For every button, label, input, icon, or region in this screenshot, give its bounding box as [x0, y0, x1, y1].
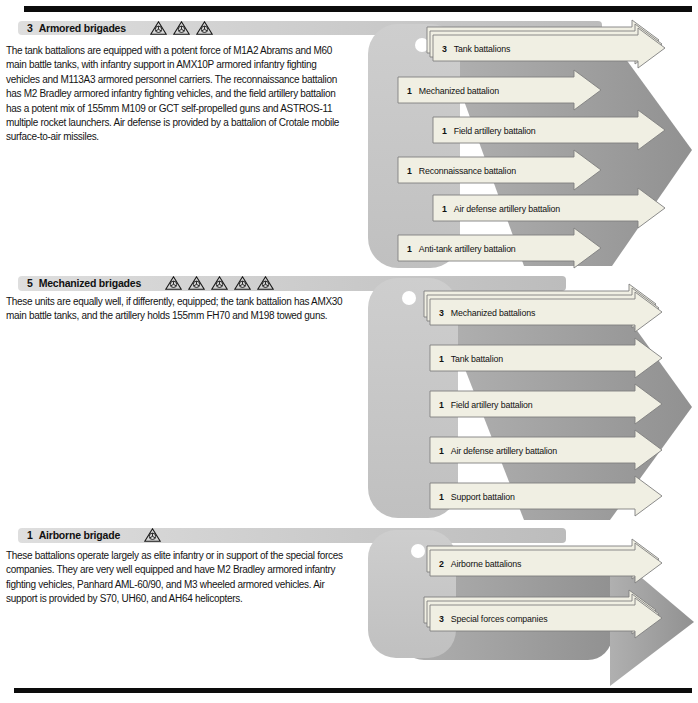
- section-header-airborne: 1 Airborne brigade: [27, 527, 161, 543]
- brigade-icon-group: [165, 276, 274, 290]
- unit-arrow-label: 1Mechanized battalion: [407, 86, 499, 96]
- brigade-symbol-icon: [165, 276, 182, 290]
- connector-notch: [402, 291, 416, 305]
- unit-arrow-label: 3Special forces companies: [439, 614, 548, 624]
- brigade-icon-group: [150, 21, 213, 35]
- section-count: 5: [27, 277, 33, 289]
- section-header-mechanized: 5 Mechanized brigades: [27, 275, 274, 291]
- section-title: Airborne brigade: [39, 529, 120, 541]
- brigade-symbol-icon: [173, 21, 190, 35]
- connector-notch: [411, 544, 425, 558]
- section-count: 3: [27, 22, 33, 34]
- brigade-symbol-icon: [188, 276, 205, 290]
- unit-arrow-label: 2Airborne battalions: [439, 559, 522, 569]
- unit-arrow-label: 1Air defense artillery battalion: [442, 204, 560, 214]
- bottom-rule: [14, 688, 692, 693]
- unit-arrow-label: 1Reconnaissance battalion: [407, 166, 516, 176]
- section-description-mechanized: These units are equally well, if differe…: [6, 295, 351, 324]
- section-description-armored: The tank battalions are equipped with a …: [6, 44, 351, 145]
- brigade-symbol-icon: [234, 276, 251, 290]
- section-title: Armored brigades: [39, 22, 126, 34]
- unit-arrow-label: 1Field artillery battalion: [442, 126, 536, 136]
- top-rule: [24, 6, 692, 12]
- brigade-big-arrow: [447, 40, 692, 266]
- unit-arrow-label: 1Anti-tank artillery battalion: [407, 244, 516, 254]
- brigade-symbol-icon: [211, 276, 228, 290]
- section-header-armored: 3 Armored brigades: [27, 20, 213, 36]
- unit-arrow-label: 1Field artillery battalion: [439, 400, 533, 410]
- unit-arrow-label: 3Mechanized battalions: [439, 308, 536, 318]
- unit-arrow-label: 1Air defense artillery battalion: [439, 446, 557, 456]
- unit-arrow-label: 1Support battalion: [439, 492, 515, 502]
- brigade-symbol-icon: [196, 21, 213, 35]
- section-description-airborne: These battalions operate largely as elit…: [6, 549, 351, 607]
- section-count: 1: [27, 529, 33, 541]
- brigade-icon-group: [144, 528, 161, 542]
- brigade-symbol-icon: [144, 528, 161, 542]
- book-diagram-page: 3Tank battalions 1Mechanized battalion 1…: [0, 0, 698, 703]
- brigade-symbol-icon: [257, 276, 274, 290]
- section-title: Mechanized brigades: [39, 277, 141, 289]
- brigade-symbol-icon: [150, 21, 167, 35]
